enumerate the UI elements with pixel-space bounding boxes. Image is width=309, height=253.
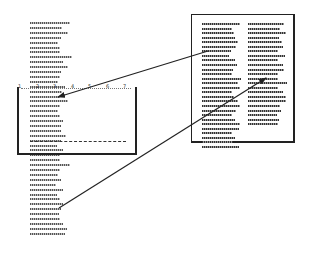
mapping-arrows (0, 0, 309, 253)
arrow-connector (58, 51, 208, 97)
diagram-canvas: 1234567 (0, 0, 309, 253)
arrow-connector (59, 78, 266, 208)
